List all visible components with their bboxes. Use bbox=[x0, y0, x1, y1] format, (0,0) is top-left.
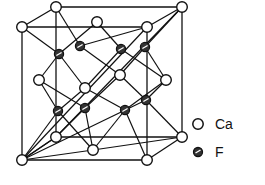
f-atom bbox=[120, 105, 129, 114]
ca-atom bbox=[34, 75, 45, 86]
f-atom bbox=[140, 42, 149, 51]
ca-atom bbox=[17, 155, 28, 166]
ca-atom bbox=[115, 70, 126, 81]
ca-atoms bbox=[17, 2, 188, 166]
ca-atom bbox=[88, 145, 99, 156]
ca-atom bbox=[142, 22, 153, 33]
f-atom bbox=[116, 44, 125, 53]
ca-legend-icon bbox=[191, 117, 205, 131]
f-atom bbox=[53, 106, 62, 115]
ca-atom bbox=[177, 2, 188, 13]
ca-atom bbox=[142, 155, 153, 166]
fluorite-unit-cell-diagram bbox=[0, 0, 265, 185]
ca-atom bbox=[80, 83, 91, 94]
ca-atom bbox=[161, 75, 172, 86]
ca-atom bbox=[177, 132, 188, 143]
f-atom bbox=[75, 41, 84, 50]
f-legend-icon bbox=[191, 145, 205, 159]
legend-item-ca: Ca bbox=[191, 116, 233, 132]
legend-label-f: F bbox=[215, 144, 224, 160]
cube-edges bbox=[22, 7, 182, 160]
f-atom bbox=[141, 95, 150, 104]
legend-label-ca: Ca bbox=[215, 116, 233, 132]
ca-atom bbox=[51, 132, 62, 143]
f-atom bbox=[80, 103, 89, 112]
legend-item-f: F bbox=[191, 144, 224, 160]
ca-atom bbox=[17, 22, 28, 33]
f-atom bbox=[54, 49, 63, 58]
ca-atom bbox=[92, 17, 103, 28]
ca-atom bbox=[51, 2, 62, 13]
